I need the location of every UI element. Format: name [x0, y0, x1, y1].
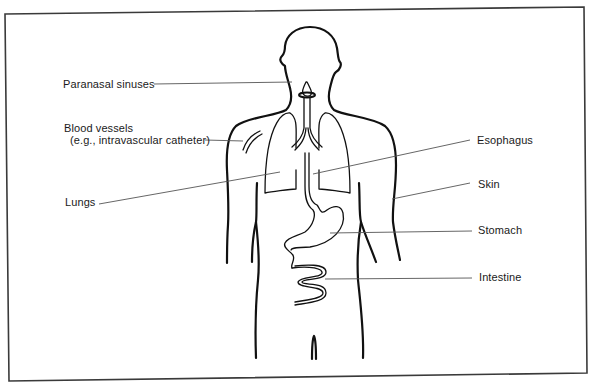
leader-blood-vessels: [205, 140, 243, 141]
body-outline: [227, 27, 400, 359]
label-blood-vessels-example: (e.g., intravascular catheter): [70, 134, 210, 146]
leader-lines: [99, 82, 472, 279]
label-stomach: Stomach: [478, 224, 522, 236]
label-intestine: Intestine: [479, 271, 521, 283]
leader-skin: [392, 183, 470, 199]
nose-sinus-shape: [303, 82, 312, 96]
body-illustration: [0, 0, 593, 388]
leader-lungs: [99, 172, 280, 204]
leader-intestine: [325, 278, 472, 279]
mouth-shape: [299, 93, 315, 98]
label-paranasal-sinuses: Paranasal sinuses: [63, 78, 155, 90]
leader-esophagus: [313, 140, 470, 174]
lungs-shape: [265, 113, 350, 193]
label-lungs: Lungs: [65, 196, 95, 208]
label-blood-vessels: Blood vessels: [64, 122, 133, 134]
diagram-frame: [5, 7, 587, 381]
label-esophagus: Esophagus: [477, 134, 533, 146]
digestive-tract: [285, 153, 344, 305]
leader-stomach: [330, 231, 472, 233]
diagram-canvas: Paranasal sinuses Blood vessels (e.g., i…: [0, 0, 593, 388]
label-skin: Skin: [478, 178, 500, 190]
leader-paranasal-sinuses: [154, 82, 292, 84]
blood-vessels-shape: [243, 131, 262, 153]
